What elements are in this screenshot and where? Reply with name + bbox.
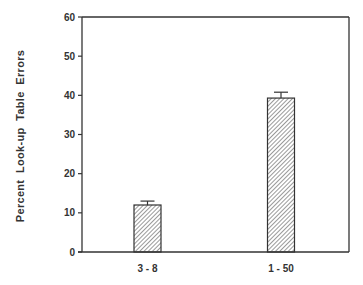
bar-1-50 xyxy=(268,92,295,252)
y-tick-label: 60 xyxy=(64,12,76,23)
y-tick-label: 30 xyxy=(64,129,76,140)
x-tick-label: 3 - 8 xyxy=(137,263,157,274)
x-axis-labels: 3 - 81 - 50 xyxy=(137,263,294,274)
y-axis-ticks: 0102030405060 xyxy=(64,12,82,258)
y-tick-label: 40 xyxy=(64,90,76,101)
bar-3-8 xyxy=(134,201,161,252)
y-tick-label: 20 xyxy=(64,168,76,179)
x-tick-label: 1 - 50 xyxy=(268,263,294,274)
y-tick-label: 50 xyxy=(64,51,76,62)
plot-frame xyxy=(78,17,349,252)
error-bar xyxy=(274,92,288,98)
bar-chart: Percent Look-up Table Errors 01020304050… xyxy=(0,0,363,285)
y-tick-label: 0 xyxy=(69,247,75,258)
bars xyxy=(134,92,295,252)
y-tick-label: 10 xyxy=(64,207,76,218)
y-axis-label: Percent Look-up Table Errors xyxy=(14,50,26,222)
